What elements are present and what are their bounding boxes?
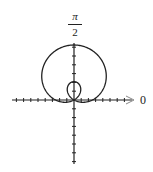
axes	[12, 43, 132, 164]
pi-denominator: 2	[72, 26, 78, 38]
pi-numerator: π	[72, 10, 78, 22]
fraction-bar	[68, 24, 82, 25]
zero-angle-label: 0	[140, 93, 146, 108]
tick-marks	[16, 47, 124, 161]
pi-over-2-label: π 2	[67, 11, 83, 38]
